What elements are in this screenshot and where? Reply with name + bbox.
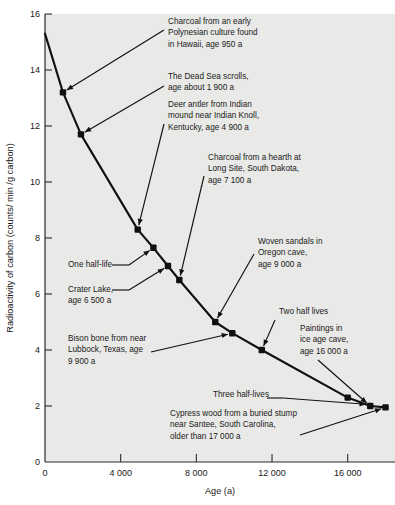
marker-deer-antler [135, 226, 141, 232]
marker-bison-bone [229, 330, 235, 336]
x-tick-label: 8 000 [185, 468, 208, 478]
x-tick-label: 4 000 [109, 468, 132, 478]
annotation-one-half-life: One half-life [68, 260, 113, 269]
chart-svg: 2468101214160 04 0008 00012 00016 000 Ra… [0, 0, 395, 505]
y-tick-label: 4 [35, 345, 40, 355]
y-axis-label: Radioactivity of carbon (counts/ min /g … [5, 143, 15, 332]
radiocarbon-decay-figure: 2468101214160 04 0008 00012 00016 000 Ra… [0, 0, 395, 505]
x-tick-label: 0 [42, 468, 47, 478]
x-tick-label: 16 000 [334, 468, 362, 478]
annotation-three-half-lives: Three half-lives [213, 390, 269, 399]
x-tick-label: 12 000 [258, 468, 286, 478]
marker-charcoal-polynesian [60, 89, 66, 95]
marker-woven-sandals [212, 319, 218, 325]
marker-ice-age-paintings [345, 394, 351, 400]
y-tick-label: 8 [35, 233, 40, 243]
marker-two-half-lives [259, 347, 265, 353]
annotation-two-half-lives: Two half lives [279, 307, 328, 316]
marker-dead-sea-scrolls [78, 131, 84, 137]
annotation-deer-antler: Deer antler from Indianmound near Indian… [168, 100, 259, 132]
y-tick-label: 12 [30, 121, 40, 131]
y-tick-label: 2 [35, 401, 40, 411]
annotation-ice-age-paintings: Paintings inice age cave,age 16 000 a [300, 324, 348, 356]
marker-crater-lake [165, 263, 171, 269]
x-axis-label: Age (a) [205, 486, 235, 496]
y-tick-label: 16 [30, 9, 40, 19]
marker-cypress-wood [382, 404, 388, 410]
marker-one-half-life [150, 245, 156, 251]
marker-charcoal-hearth [176, 277, 182, 283]
marker-three-half-lives [367, 403, 373, 409]
y-tick-label: 6 [35, 289, 40, 299]
y-tick-label-zero: 0 [35, 457, 40, 467]
y-tick-label: 14 [30, 65, 40, 75]
y-tick-label: 10 [30, 177, 40, 187]
